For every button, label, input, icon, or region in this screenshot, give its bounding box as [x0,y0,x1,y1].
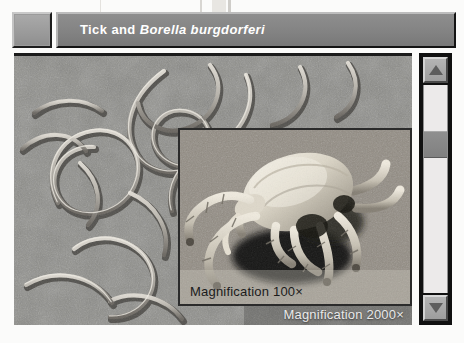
scrollbar-thumb[interactable] [424,131,447,158]
system-menu-box[interactable] [12,12,52,48]
window-title-prefix: Tick and [80,22,140,37]
inset-magnification-caption: Magnification 100× [190,284,303,299]
tick-micrograph [180,130,410,304]
main-image-viewport[interactable]: Magnification 2000× [14,53,412,325]
window-titlebar[interactable]: Tick and Borella burgdorferi [56,12,456,48]
vertical-scrollbar[interactable] [419,53,452,325]
scroll-down-button[interactable] [423,295,448,321]
viewport-top-border [14,53,412,56]
main-magnification-caption: Magnification 2000× [283,307,404,322]
chevron-up-icon [429,65,443,75]
window-title-species: Borella burgdorferi [140,22,265,37]
image-viewer-window: Tick and Borella burgdorferi [0,11,464,343]
scrollbar-track[interactable] [423,85,448,293]
system-menu-box-face [15,15,49,45]
chevron-down-icon [429,303,443,313]
inset-image-panel[interactable]: Magnification 100× [178,128,412,306]
scroll-up-button[interactable] [423,57,448,83]
titlebar-row: Tick and Borella burgdorferi [12,11,456,49]
window-title: Tick and Borella burgdorferi [80,22,265,37]
